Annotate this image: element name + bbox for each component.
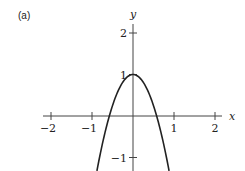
y-axis-label: y: [129, 8, 137, 21]
y-tick-label: 2: [120, 27, 127, 40]
parabola-chart: (a) −2−11221−1 x y: [0, 0, 245, 171]
tick-labels: −2−11221−1: [40, 27, 219, 165]
x-axis-label: x: [229, 110, 236, 123]
y-tick-label: −1: [111, 152, 127, 165]
axes: [43, 24, 222, 171]
panel-label: (a): [18, 10, 30, 21]
x-tick-label: −1: [81, 122, 97, 135]
x-tick-label: 2: [212, 122, 219, 135]
x-tick-label: −2: [40, 122, 56, 135]
y-tick-label: 1: [120, 69, 127, 82]
x-tick-label: 1: [171, 122, 178, 135]
